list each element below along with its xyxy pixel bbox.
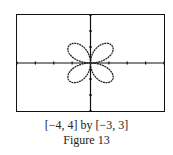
- figure-label: Figure 13: [0, 134, 173, 147]
- window-caption: [−4, 4] by [−3, 3]: [0, 119, 173, 132]
